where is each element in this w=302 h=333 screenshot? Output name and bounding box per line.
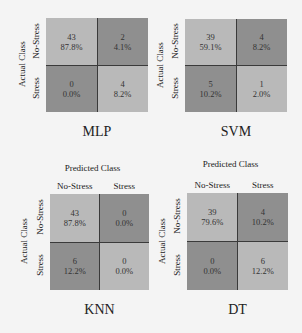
grid-divider-horizontal [185,65,287,66]
chart-title: KNN [60,302,140,318]
grid-divider-horizontal [46,65,148,66]
matrix-cell: 00.0% [100,194,150,242]
cell-count: 4 [120,79,124,89]
row-label: Stress [31,58,41,118]
cell-count: 5 [208,79,212,89]
x-axis-label: Predicted Class [181,159,281,169]
cell-count: 6 [261,256,265,266]
matrix-cell: 24.1% [97,18,148,65]
matrix-cell: 00.0% [46,65,97,112]
cell-count: 0 [122,208,126,218]
cell-count: 43 [67,32,76,42]
cell-count: 43 [71,208,80,218]
matrix-cell: 00.0% [187,242,238,291]
confusion-matrix-grid: 4387.8%00.0%612.2%00.0% [50,194,149,290]
cell-percent: 10.2% [200,89,222,99]
row-label: Stress [170,58,180,118]
y-axis-label: Actual Class [155,25,165,105]
cell-percent: 12.2% [252,266,274,276]
matrix-cell: 510.2% [185,66,236,113]
cell-percent: 0.0% [115,218,133,228]
y-axis-label: Actual Class [157,201,167,281]
cell-percent: 8.2% [114,89,132,99]
cell-count: 1 [259,79,263,89]
cell-percent: 59.1% [200,42,222,52]
matrix-cell: 612.2% [238,242,289,291]
y-axis-label: Actual Class [19,201,29,281]
cell-percent: 79.6% [201,217,223,227]
chart-title: DT [198,302,278,318]
matrix-cell: 12.0% [236,66,287,113]
matrix-cell: 612.2% [50,242,100,290]
column-label: Stress [238,180,289,190]
cell-count: 0 [69,79,73,89]
cell-percent: 4.1% [114,42,132,52]
cell-count: 6 [73,256,77,266]
cell-percent: 10.2% [252,217,274,227]
chart-title: SVM [196,124,276,140]
matrix-cell: 3959.1% [185,19,236,66]
cell-count: 39 [208,207,217,217]
matrix-cell: 410.2% [238,193,289,242]
confusion-matrix-grid: 3959.1%48.2%510.2%12.0% [185,19,287,112]
confusion-matrix-grid: 3979.6%410.2%00.0%612.2% [187,193,288,290]
column-label: No-Stress [187,180,238,190]
cell-count: 2 [120,32,124,42]
cell-percent: 0.0% [115,266,133,276]
x-axis-label: Predicted Class [43,163,143,173]
cell-count: 4 [259,32,263,42]
matrix-cell: 4387.8% [50,194,100,242]
column-label: No-Stress [50,181,100,191]
cell-percent: 8.2% [253,42,271,52]
cell-percent: 12.2% [64,266,86,276]
cell-count: 0 [122,256,126,266]
cell-percent: 2.0% [253,89,271,99]
cell-count: 0 [210,256,214,266]
cell-count: 39 [206,32,215,42]
cell-percent: 0.0% [63,89,81,99]
grid-divider-horizontal [50,242,149,243]
matrix-cell: 00.0% [100,242,150,290]
confusion-matrix-grid: 4387.8%24.1%00.0%48.2% [46,18,148,112]
column-label: Stress [100,181,150,191]
row-label: Stress [172,235,182,295]
cell-percent: 87.8% [61,42,83,52]
matrix-cell: 4387.8% [46,18,97,65]
row-label: Stress [35,235,45,295]
grid-divider-horizontal [187,241,288,242]
matrix-cell: 3979.6% [187,193,238,242]
cell-percent: 0.0% [203,266,221,276]
matrix-cell: 48.2% [97,65,148,112]
chart-title: MLP [57,124,137,140]
cell-count: 4 [261,207,265,217]
matrix-cell: 48.2% [236,19,287,66]
cell-percent: 87.8% [64,218,86,228]
y-axis-label: Actual Class [17,24,27,104]
